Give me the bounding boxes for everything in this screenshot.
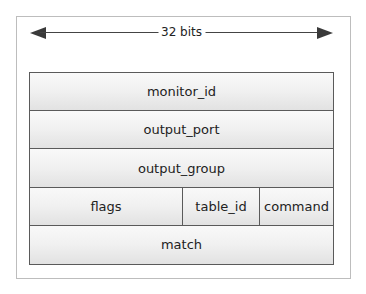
field-match: match [30,226,333,264]
field-monitor-id: monitor_id [30,73,333,110]
field-row: monitor_id [30,73,333,111]
field-row: match [30,226,333,264]
width-indicator: 32 bits [30,24,333,42]
arrow-right-icon [317,27,333,39]
field-output-port: output_port [30,111,333,148]
field-flags: flags [30,188,182,225]
width-label: 32 bits [158,24,205,41]
field-row: output_port [30,111,333,149]
field-row: output_group [30,149,333,187]
field-command: command [259,188,333,225]
field-row: flags table_id command [30,188,333,226]
packet-structure: monitor_id output_port output_group flag… [29,72,334,265]
field-output-group: output_group [30,149,333,186]
field-table-id: table_id [182,188,259,225]
arrow-left-icon [30,27,46,39]
